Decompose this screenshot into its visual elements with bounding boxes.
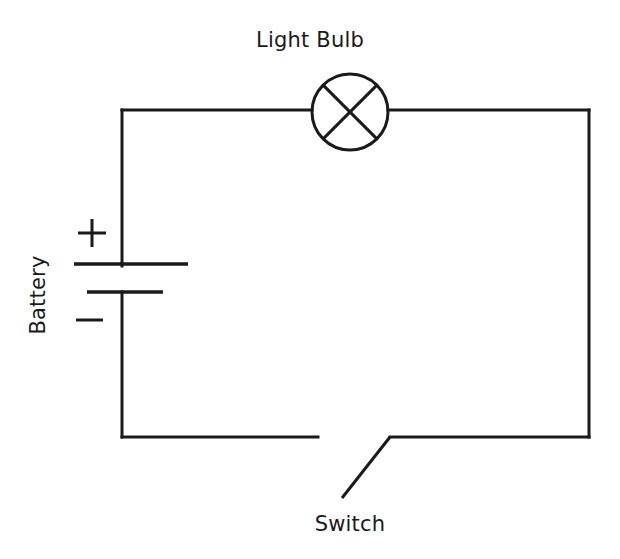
circuit-diagram: Light Bulb Battery Switch xyxy=(0,0,620,559)
switch-label: Switch xyxy=(238,512,462,536)
circuit-schematic-canvas xyxy=(0,0,620,559)
light-bulb-label: Light Bulb xyxy=(0,28,620,52)
battery-label: Battery xyxy=(26,240,50,350)
battery-plus-sign-icon xyxy=(78,219,106,247)
switch-blade-icon xyxy=(342,437,390,498)
